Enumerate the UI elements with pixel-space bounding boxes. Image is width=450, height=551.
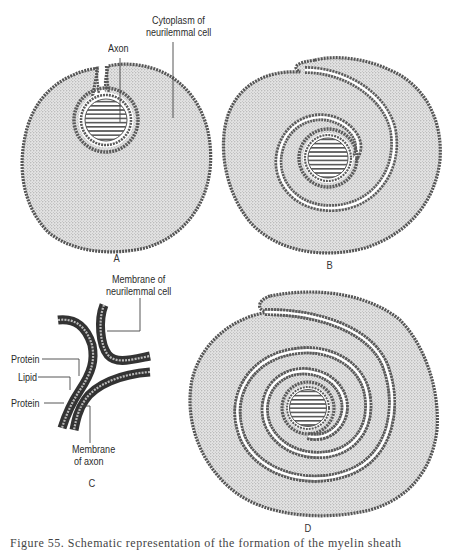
panel-c	[38, 298, 150, 443]
label-protein-top: Protein	[11, 353, 40, 365]
label-cytoplasm-line2: neurilemmal cell	[146, 26, 211, 38]
label-cytoplasm-line1: Cytoplasm of	[152, 14, 205, 26]
label-protein-bottom: Protein	[11, 397, 40, 409]
label-membrane-neurilemmal-line2: neurilemmal cell	[106, 285, 171, 297]
label-membrane-neurilemmal-line1: Membrane of	[112, 273, 165, 285]
panel-d	[190, 292, 437, 516]
axon-b	[308, 138, 348, 178]
panel-letter-a: A	[114, 252, 120, 264]
panel-letter-d: D	[305, 522, 312, 534]
neurilemmal-membrane-right	[101, 305, 150, 360]
neurilemmal-cell-a	[22, 64, 211, 252]
figure-caption: Figure 55. Schematic representation of t…	[10, 536, 401, 551]
panel-letter-c: C	[89, 477, 96, 489]
axon-a	[85, 99, 127, 141]
label-membrane-axon-line1: Membrane	[72, 443, 115, 455]
panel-letter-b: B	[327, 259, 333, 271]
label-axon: Axon	[108, 42, 129, 54]
axon-d	[290, 390, 327, 427]
panel-a	[22, 42, 211, 252]
label-membrane-axon-line2: of axon	[74, 455, 104, 467]
panel-b	[223, 58, 440, 253]
label-lipid: Lipid	[18, 371, 37, 383]
